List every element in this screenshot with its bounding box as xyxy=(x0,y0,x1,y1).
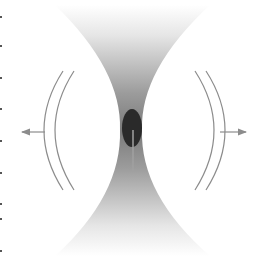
right-arc-outer xyxy=(206,71,225,190)
central-ellipse xyxy=(122,109,142,147)
diagram-svg xyxy=(0,0,263,261)
left-tick-marks xyxy=(0,16,2,252)
left-arc-outer xyxy=(44,71,63,190)
diagram-canvas xyxy=(0,0,263,261)
right-arc-inner xyxy=(195,71,214,190)
left-arc-inner xyxy=(55,71,74,190)
